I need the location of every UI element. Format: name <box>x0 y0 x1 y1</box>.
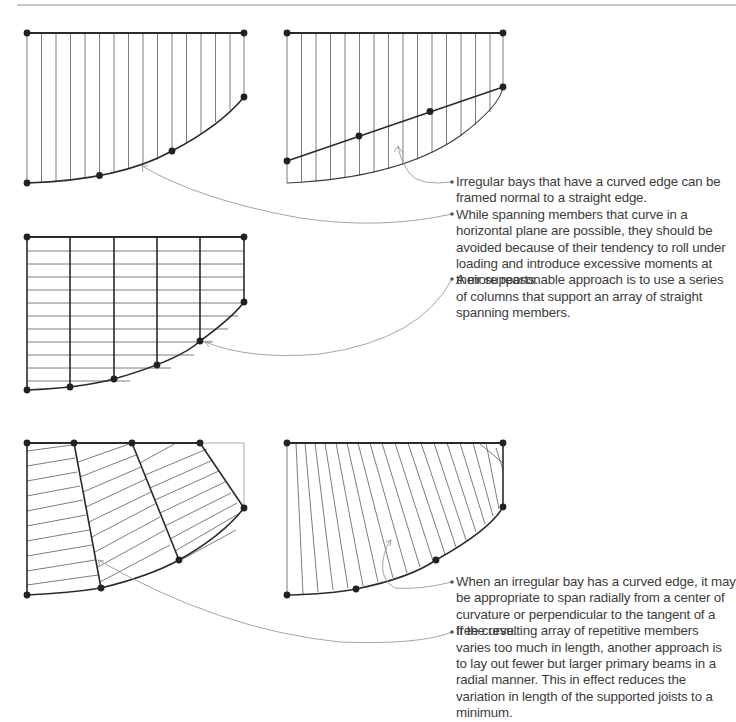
note-radial-primary-beams: If the resulting array of repetitive mem… <box>456 623 736 721</box>
joists <box>27 33 244 183</box>
note-irregular-bays: Irregular bays that have a curved edge c… <box>456 174 736 207</box>
joists <box>27 443 240 585</box>
leader-lines <box>98 146 454 643</box>
notes-bottom: When an irregular bay has a curved edge,… <box>456 574 736 722</box>
joists <box>287 443 503 595</box>
note-radial-span: When an irregular bay has a curved edge,… <box>456 574 736 623</box>
primary-beams <box>27 443 244 595</box>
joists <box>27 251 244 381</box>
diagram-radial-primary-beams <box>24 440 248 599</box>
note-columns-approach: A more reasonable approach is to use a s… <box>456 272 736 321</box>
joists <box>287 33 503 183</box>
notes-top: Irregular bays that have a curved edge c… <box>456 174 736 322</box>
diagram-curved-bay-columns-straight-members <box>24 234 248 394</box>
columns <box>27 237 244 390</box>
note-curved-spanning-members: While spanning members that curve in a h… <box>456 207 736 273</box>
diagram-curved-bay-normal-framing <box>24 30 248 187</box>
diagram-curved-bay-straight-girder <box>284 30 507 183</box>
